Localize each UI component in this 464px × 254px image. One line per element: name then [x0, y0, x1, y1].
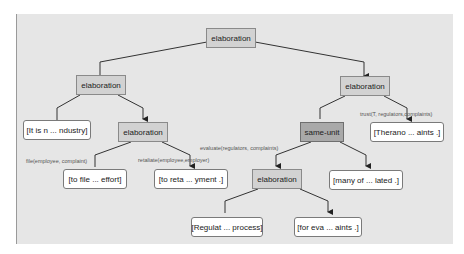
- relation-label: elaboration: [345, 82, 385, 91]
- relation-label: elaboration: [257, 175, 297, 184]
- edge-label-file: file(employee, complaint): [26, 158, 87, 164]
- leaf-node-to-reta[interactable]: [to reta ... yment .]: [154, 169, 228, 189]
- relation-label: elaboration: [123, 128, 163, 137]
- leaf-node-it-is[interactable]: [It is n ... ndustry]: [23, 120, 91, 140]
- relation-node-bottom-elaboration[interactable]: elaboration: [252, 169, 302, 189]
- relation-node-same-unit[interactable]: same-unit: [300, 122, 344, 142]
- leaf-node-therano[interactable]: [Therano ... aints .]: [370, 122, 444, 142]
- leaf-text: [Regulat ... process]: [191, 223, 262, 232]
- relation-node-left-elaboration[interactable]: elaboration: [76, 75, 126, 95]
- relation-node-inner-elaboration[interactable]: elaboration: [118, 122, 168, 142]
- leaf-text: [It is n ... ndustry]: [27, 126, 88, 135]
- relation-node-right-elaboration[interactable]: elaboration: [340, 76, 390, 96]
- leaf-node-regulat[interactable]: [Regulat ... process]: [191, 217, 263, 237]
- relation-node-root[interactable]: elaboration: [206, 28, 256, 48]
- leaf-text: [to file ... effort]: [69, 175, 122, 184]
- leaf-text: [many of ... lated .]: [333, 176, 399, 185]
- leaf-text: [Therano ... aints .]: [374, 128, 441, 137]
- relation-label: same-unit: [304, 128, 339, 137]
- leaf-text: [to reta ... yment .]: [159, 175, 223, 184]
- edge-label-retaliate: retaliate(employee,employer): [138, 157, 209, 163]
- leaf-node-to-file[interactable]: [to file ... effort]: [63, 169, 127, 189]
- leaf-node-many-of[interactable]: [many of ... lated .]: [329, 170, 403, 190]
- edge-label-trust: trust(T, regulators,complaints): [360, 111, 432, 117]
- relation-label: elaboration: [81, 81, 121, 90]
- leaf-node-for-eva[interactable]: [for eva ... aints .]: [294, 217, 362, 237]
- edge-label-evaluate: evaluate(regulators, complaints): [200, 145, 278, 151]
- relation-label: elaboration: [211, 34, 251, 43]
- leaf-text: [for eva ... aints .]: [297, 223, 358, 232]
